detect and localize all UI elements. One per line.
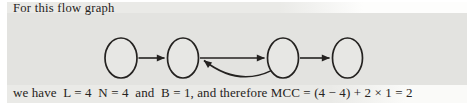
result-text: we have L = 4 N = 4 and B = 1, and there… <box>13 86 413 100</box>
scanned-page: For this flow graph we have L = 4 N = 4 … <box>0 0 474 104</box>
flow-node-n1 <box>105 38 137 78</box>
flow-node-n2 <box>168 38 199 78</box>
flow-node-n4 <box>333 38 363 78</box>
intro-text: For this flow graph <box>13 2 115 15</box>
flow-node-n3 <box>268 38 299 78</box>
edge-arrow-n3-n2 <box>204 61 272 77</box>
